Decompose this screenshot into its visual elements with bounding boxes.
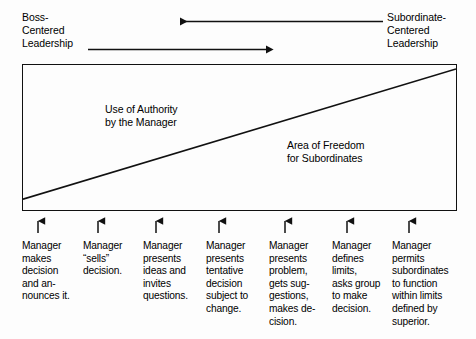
- step-caption-4: Manager presents tentative decision subj…: [206, 240, 268, 316]
- step-caption-7: Manager permits subordinates to function…: [392, 240, 468, 328]
- diagram-canvas: Boss- Centered Leadership Subordinate- C…: [0, 0, 476, 339]
- use-of-authority-label: Use of Authority by the Manager: [105, 103, 178, 130]
- header-arrows: [0, 0, 476, 64]
- step-caption-2: Manager “sells” decision.: [83, 240, 141, 278]
- step-captions: Manager makes decision and an- nounces i…: [0, 240, 476, 339]
- area-of-freedom-label: Area of Freedom for Subordinates: [287, 139, 364, 166]
- step-caption-1: Manager makes decision and an- nounces i…: [22, 240, 80, 303]
- step-tick-arrows: [0, 211, 476, 237]
- step-caption-3: Manager presents ideas and invites quest…: [143, 240, 205, 303]
- diagonal-divider-line: [23, 65, 456, 210]
- step-caption-5: Manager presents problem, gets sug- gest…: [269, 240, 331, 328]
- continuum-box: Use of Authority by the Manager Area of …: [22, 64, 457, 211]
- step-caption-6: Manager defines limits, asks group to ma…: [332, 240, 392, 316]
